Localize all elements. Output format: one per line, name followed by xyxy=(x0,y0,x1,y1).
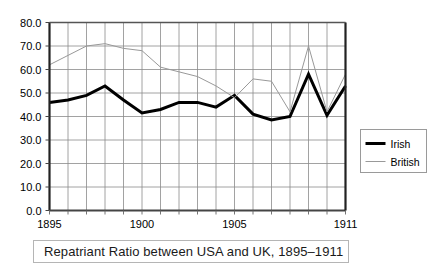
y-axis-tick-labels: 0.010.020.030.040.050.060.070.080.0 xyxy=(20,17,49,217)
chart-area: 0.010.020.030.040.050.060.070.080.0 1895… xyxy=(0,0,434,234)
x-tick-label: 1905 xyxy=(222,218,246,230)
legend-label-irish: Irish xyxy=(391,138,411,150)
y-tick-label: 10.0 xyxy=(20,181,41,193)
caption-bar: Repatriant Ratio between USA and UK, 189… xyxy=(33,240,349,263)
grid-lines xyxy=(50,23,346,211)
y-tick-label: 40.0 xyxy=(20,111,41,123)
legend-label-british: British xyxy=(391,156,420,168)
y-tick-label: 50.0 xyxy=(20,87,41,99)
y-tick-label: 60.0 xyxy=(20,64,41,76)
figure-container: 0.010.020.030.040.050.060.070.080.0 1895… xyxy=(0,0,434,270)
y-tick-label: 0.0 xyxy=(26,205,41,217)
y-tick-label: 30.0 xyxy=(20,134,41,146)
y-tick-label: 70.0 xyxy=(20,40,41,52)
chart-legend: IrishBritish xyxy=(361,130,427,173)
y-tick-label: 20.0 xyxy=(20,158,41,170)
y-tick-label: 80.0 xyxy=(20,17,41,29)
caption-text: Repatriant Ratio between USA and UK, 189… xyxy=(34,244,343,259)
x-axis-tick-labels: 1895190019051911 xyxy=(37,211,357,230)
x-tick-label: 1911 xyxy=(334,218,358,230)
x-tick-label: 1895 xyxy=(37,218,61,230)
x-tick-label: 1900 xyxy=(130,218,154,230)
line-chart: 0.010.020.030.040.050.060.070.080.0 1895… xyxy=(0,0,434,234)
